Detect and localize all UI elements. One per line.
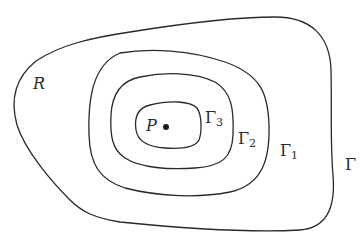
label-gamma-1-symbol: Γ bbox=[280, 141, 291, 160]
nested-curves-diagram: R P Γ3 Γ2 Γ1 Γ bbox=[0, 0, 361, 235]
label-gamma-2: Γ2 bbox=[238, 131, 256, 149]
point-label-p: P bbox=[146, 118, 157, 134]
label-gamma: Γ bbox=[345, 157, 356, 173]
label-gamma-1: Γ1 bbox=[280, 143, 298, 161]
label-gamma-1-subscript: 1 bbox=[291, 149, 298, 162]
label-gamma-3-symbol: Γ bbox=[205, 108, 216, 127]
curve-gamma bbox=[14, 17, 333, 231]
label-gamma-symbol: Γ bbox=[345, 155, 356, 174]
label-gamma-3: Γ3 bbox=[205, 110, 223, 128]
curve-gamma-1 bbox=[89, 50, 269, 195]
label-gamma-2-subscript: 2 bbox=[249, 137, 256, 150]
curves-canvas bbox=[0, 0, 361, 235]
label-gamma-2-symbol: Γ bbox=[238, 129, 249, 148]
region-label-r: R bbox=[33, 76, 45, 92]
point-p-dot bbox=[163, 124, 169, 130]
label-gamma-3-subscript: 3 bbox=[216, 116, 223, 129]
